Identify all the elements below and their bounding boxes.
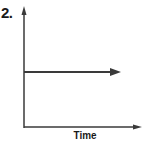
graph-canvas [0, 0, 147, 142]
y-axis [22, 6, 27, 128]
y-axis-arrow-icon [22, 6, 27, 15]
x-axis-arrow-icon [133, 125, 142, 130]
line-arrow-icon [110, 68, 121, 76]
constant-value-line [24, 68, 121, 76]
x-axis-label: Time [64, 129, 105, 141]
